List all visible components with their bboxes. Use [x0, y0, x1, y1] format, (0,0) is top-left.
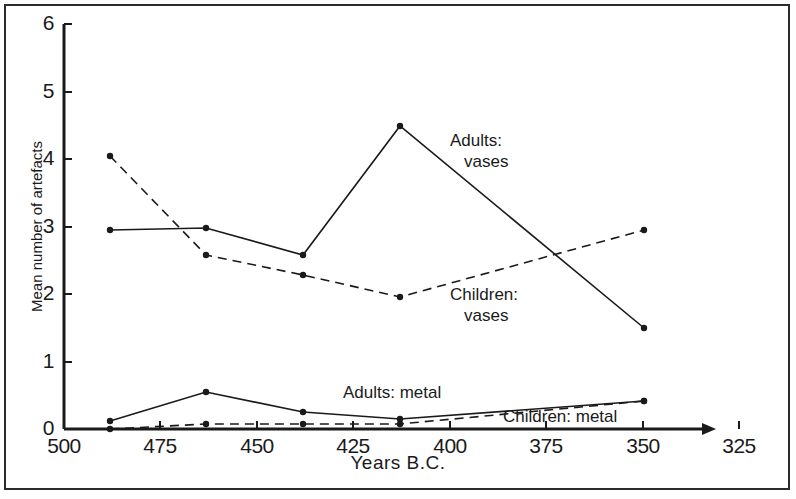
- annotation-adults-vases: Adults: vases: [450, 130, 508, 173]
- data-point: [107, 153, 113, 159]
- chart-figure: 6 5 4 3 2 1 0 500 475 450 425 400 375 35…: [0, 0, 796, 499]
- data-point: [397, 421, 403, 427]
- data-point: [107, 227, 113, 233]
- data-point: [300, 421, 306, 427]
- data-point: [300, 409, 306, 415]
- y-axis-title: Mean number of artefacts: [28, 127, 45, 327]
- annotation-adults-vases-line2: vases: [450, 151, 508, 172]
- data-point: [203, 225, 209, 231]
- data-point: [107, 418, 113, 424]
- annotation-adults-metal-line1: Adults: metal: [343, 383, 441, 402]
- annotation-children-metal: Children: metal: [503, 406, 617, 427]
- data-point: [203, 389, 209, 395]
- data-point: [107, 426, 113, 432]
- annotation-children-vases-line2: vases: [450, 305, 518, 326]
- plot-area: [6, 6, 792, 492]
- annotation-children-metal-line1: Children: metal: [503, 407, 617, 426]
- data-point: [397, 294, 403, 300]
- data-point: [641, 227, 647, 233]
- data-point: [641, 325, 647, 331]
- data-point: [300, 272, 306, 278]
- data-point: [397, 123, 403, 129]
- annotation-children-vases: Children: vases: [450, 284, 518, 327]
- annotation-adults-metal: Adults: metal: [343, 382, 441, 403]
- data-point: [203, 252, 209, 258]
- annotation-adults-vases-line1: Adults:: [450, 131, 502, 150]
- y-tick-label-6: 6: [20, 11, 54, 35]
- series-adults-vases: [107, 123, 647, 331]
- data-point: [300, 252, 306, 258]
- x-axis-title: Years B.C.: [0, 452, 796, 474]
- data-point: [641, 398, 647, 404]
- data-point: [203, 421, 209, 427]
- y-tick-label-1: 1: [20, 349, 54, 373]
- y-tick-label-5: 5: [20, 79, 54, 103]
- series-children-vases: [107, 153, 647, 300]
- figure-frame: 6 5 4 3 2 1 0 500 475 450 425 400 375 35…: [4, 4, 790, 490]
- annotation-children-vases-line1: Children:: [450, 285, 518, 304]
